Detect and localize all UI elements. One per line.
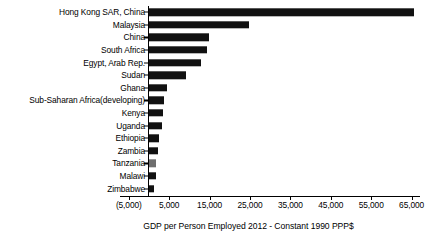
bar	[149, 46, 207, 53]
bar	[149, 185, 154, 192]
bar-row: Sudan	[0, 69, 427, 82]
x-axis-tick-label: (5,000)	[116, 201, 142, 209]
category-tick	[144, 163, 148, 164]
bar	[149, 122, 162, 129]
bar-row: Kenya	[0, 107, 427, 120]
bar-row: Zambia	[0, 145, 427, 158]
bar-row: Hong Kong SAR, China	[0, 6, 427, 19]
category-tick	[144, 37, 148, 38]
category-tick	[144, 12, 148, 13]
x-axis-tick-label: 15,000	[197, 201, 222, 209]
bar	[149, 21, 249, 28]
bar	[149, 147, 158, 154]
bar-row: China	[0, 31, 427, 44]
category-label: Sub-Saharan Africa(developing)	[29, 96, 148, 104]
category-tick	[144, 87, 148, 88]
bar	[149, 109, 163, 116]
bar	[149, 72, 186, 79]
bar	[149, 9, 414, 16]
bar	[149, 97, 164, 104]
bar-row: Tanzania	[0, 157, 427, 170]
category-tick	[144, 176, 148, 177]
category-label: Hong Kong SAR, China	[59, 8, 148, 16]
bar-row: Malawi	[0, 170, 427, 183]
x-axis-tick-label: 35,000	[278, 201, 303, 209]
bar	[149, 160, 156, 167]
x-axis-tick-label: 45,000	[318, 201, 343, 209]
category-tick	[144, 24, 148, 25]
category-tick	[144, 113, 148, 114]
x-axis-tick-label: 25,000	[237, 201, 262, 209]
bar-row: Ethiopia	[0, 132, 427, 145]
bar-row: Ghana	[0, 82, 427, 95]
category-label: Tanzania	[112, 159, 148, 167]
bar-row: Sub-Saharan Africa(developing)	[0, 94, 427, 107]
bar	[149, 34, 209, 41]
category-tick	[144, 188, 148, 189]
category-tick	[144, 100, 148, 101]
category-tick	[144, 125, 148, 126]
category-tick	[144, 75, 148, 76]
category-tick	[144, 50, 148, 51]
category-label: Zimbabwe	[107, 184, 148, 192]
bar-row: Uganda	[0, 119, 427, 132]
bar	[149, 172, 156, 179]
category-tick	[144, 62, 148, 63]
x-axis-tick-label: 65,000	[399, 201, 424, 209]
x-axis-tick-label: 55,000	[359, 201, 384, 209]
bar	[149, 59, 201, 66]
x-axis-tick-label: 5,000	[159, 201, 179, 209]
category-label: South Africa	[101, 46, 148, 54]
bar-row: Zimbabwe	[0, 182, 427, 195]
category-tick	[144, 138, 148, 139]
category-label: Malaysia	[113, 21, 148, 29]
bar-row: Malaysia	[0, 19, 427, 32]
bar	[149, 84, 167, 91]
category-label: Egypt, Arab Rep.	[83, 58, 148, 66]
gdp-per-person-employed-bar-chart: Hong Kong SAR, ChinaMalaysiaChinaSouth A…	[0, 0, 427, 243]
bar	[149, 135, 159, 142]
bar-row: Egypt, Arab Rep.	[0, 56, 427, 69]
value-axis-line	[120, 196, 420, 197]
plot-area: Hong Kong SAR, ChinaMalaysiaChinaSouth A…	[0, 0, 427, 196]
x-axis-title: GDP per Person Employed 2012 - Constant …	[0, 222, 427, 231]
bar-row: South Africa	[0, 44, 427, 57]
category-tick	[144, 150, 148, 151]
